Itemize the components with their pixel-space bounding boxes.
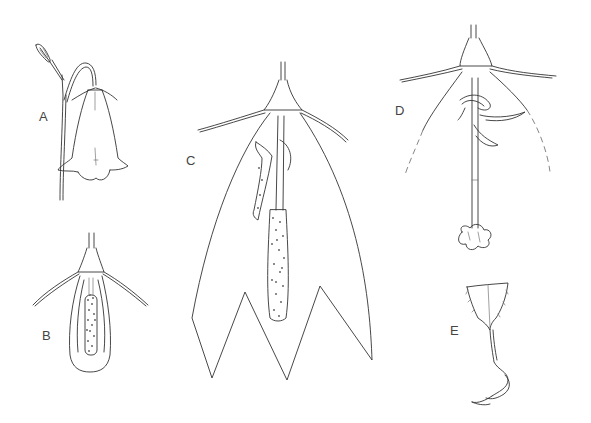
botanical-figure: A B C D E xyxy=(0,0,591,423)
panel-label-d: D xyxy=(395,103,404,118)
panel-label-a: A xyxy=(39,109,48,124)
panel-e-drawing xyxy=(466,283,509,405)
panel-label-b: B xyxy=(42,328,51,343)
panel-d-drawing xyxy=(400,25,556,250)
panel-label-c: C xyxy=(186,153,195,168)
panel-a-flower-drawing xyxy=(36,44,128,200)
drawing-canvas xyxy=(0,0,591,423)
panel-b-drawing xyxy=(33,233,148,372)
panel-label-e: E xyxy=(450,323,459,338)
panel-c-drawing xyxy=(192,62,372,380)
